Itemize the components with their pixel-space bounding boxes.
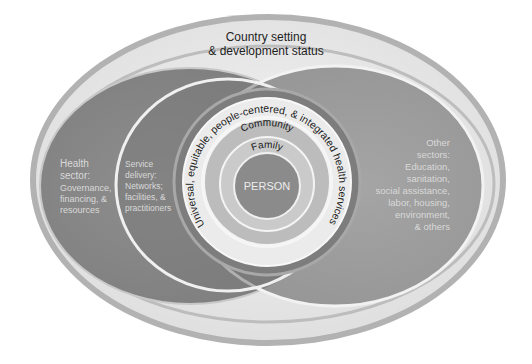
country-setting-title-line2: & development status xyxy=(208,44,323,58)
service-delivery-line: facilities, & xyxy=(125,192,166,202)
other-sectors-line: Other xyxy=(426,137,450,148)
other-sectors-line: labor, housing, xyxy=(388,197,450,208)
other-sectors-line: Education, xyxy=(405,161,450,172)
country-setting-title-line1: Country setting xyxy=(226,30,307,44)
service-delivery-line: Service xyxy=(125,159,154,169)
other-sectors-line: social assistance, xyxy=(376,185,450,196)
health-sector-line: resources xyxy=(60,205,100,215)
person-label: PERSON xyxy=(244,180,291,192)
other-sectors-line: environment, xyxy=(395,209,450,220)
health-sector-line: sector: xyxy=(60,170,90,181)
health-sector-line: Health xyxy=(60,158,89,169)
health-systems-diagram: Country setting & development status Hea… xyxy=(0,0,532,364)
service-delivery-line: practitioners xyxy=(125,203,171,213)
other-sectors-line: & others xyxy=(415,221,451,232)
health-sector-line: Governance, xyxy=(60,183,112,193)
health-sector-line: financing, & xyxy=(60,194,107,204)
other-sectors-line: sectors: xyxy=(417,149,450,160)
service-delivery-line: Networks; xyxy=(125,181,163,191)
service-delivery-line: delivery: xyxy=(125,170,157,180)
other-sectors-line: sanitation, xyxy=(407,173,450,184)
